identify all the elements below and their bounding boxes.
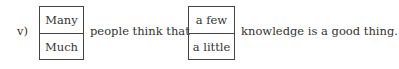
choice-box-1: Many Much: [39, 6, 84, 60]
choice-1-option-many[interactable]: Many: [40, 7, 83, 34]
choice-2-option-a-little[interactable]: a little: [189, 34, 234, 60]
question-label: v): [17, 24, 28, 38]
sentence-end: knowledge is a good thing.: [241, 24, 398, 38]
choice-1-option-much[interactable]: Much: [40, 34, 83, 60]
choice-2-option-a-few[interactable]: a few: [189, 7, 234, 34]
choice-box-2: a few a little: [188, 6, 235, 60]
sentence-middle: people think that: [90, 24, 190, 38]
